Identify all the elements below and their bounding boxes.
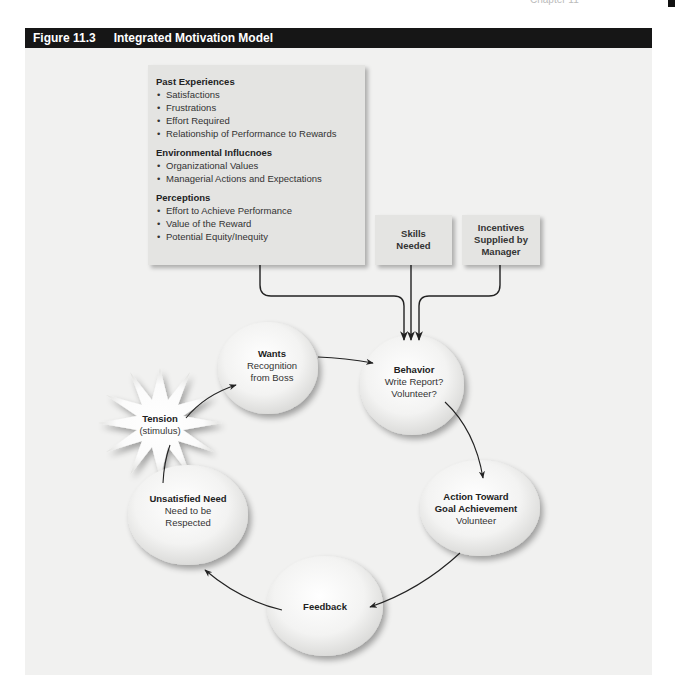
behavior-title: Behavior	[385, 364, 443, 376]
unsatisfied-line-2: Respected	[149, 517, 226, 529]
arrow-action-to-feedback	[370, 553, 460, 607]
list-item: Potential Equity/Inequity	[156, 230, 357, 243]
perceptions-list: Effort to Achieve Performance Value of t…	[156, 204, 357, 243]
feedback-node-label: Feedback	[303, 601, 347, 613]
wants-title: Wants	[247, 348, 297, 360]
list-item: Value of the Reward	[156, 217, 357, 230]
skills-needed-box: Skills Needed	[375, 215, 452, 265]
section-title-environmental-influences: Environmental Influcnoes	[156, 146, 357, 159]
list-item: Frustrations	[156, 101, 357, 114]
unsatisfied-need-node-label: Unsatisfied Need Need to be Respected	[149, 493, 226, 529]
behavior-line-1: Write Report?	[385, 376, 443, 388]
incentives-line-2: Supplied by	[474, 234, 528, 246]
arrow-wants-to-behavior	[318, 357, 373, 363]
list-item: Effort to Achieve Performance	[156, 204, 357, 217]
incentives-line-1: Incentives	[474, 222, 528, 234]
behavior-line-2: Volunteer?	[385, 388, 443, 400]
environmental-influences-list: Organizational Values Managerial Actions…	[156, 159, 357, 185]
section-title-past-experiences: Past Experiences	[156, 75, 357, 88]
list-item: Organizational Values	[156, 159, 357, 172]
unsatisfied-title: Unsatisfied Need	[149, 493, 226, 505]
wants-line-1: Recognition	[247, 360, 297, 372]
connector-incentives-to-behavior	[419, 265, 500, 340]
action-title-2: Goal Achievement	[435, 503, 518, 515]
list-item: Satisfactions	[156, 88, 357, 101]
unsatisfied-line-1: Need to be	[149, 505, 226, 517]
influences-box: Past Experiences Satisfactions Frustrati…	[148, 65, 365, 265]
list-item: Relationship of Performance to Rewards	[156, 127, 357, 140]
incentives-box: Incentives Supplied by Manager	[462, 215, 540, 265]
feedback-title: Feedback	[303, 601, 347, 613]
skills-line-1: Skills	[396, 228, 430, 240]
action-node-label: Action Toward Goal Achievement Volunteer	[435, 491, 518, 527]
incentives-line-3: Manager	[474, 246, 528, 258]
tension-node-label: Tension (stimulus)	[139, 413, 180, 437]
action-line-1: Volunteer	[435, 515, 518, 527]
tension-title: Tension	[139, 413, 180, 425]
wants-line-2: from Boss	[247, 372, 297, 384]
behavior-node-label: Behavior Write Report? Volunteer?	[385, 364, 443, 400]
action-title-1: Action Toward	[435, 491, 518, 503]
skills-line-2: Needed	[396, 240, 430, 252]
wants-node-label: Wants Recognition from Boss	[247, 348, 297, 384]
section-title-perceptions: Perceptions	[156, 191, 357, 204]
list-item: Effort Required	[156, 114, 357, 127]
past-experiences-list: Satisfactions Frustrations Effort Requir…	[156, 88, 357, 140]
list-item: Managerial Actions and Expectations	[156, 172, 357, 185]
tension-line-1: (stimulus)	[139, 425, 180, 437]
